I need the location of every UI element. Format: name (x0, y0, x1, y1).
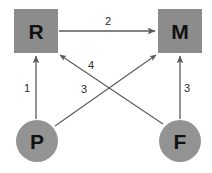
edge-label-p-to-m: 3 (81, 84, 87, 95)
node-r: R (14, 9, 58, 53)
node-p: P (16, 120, 58, 162)
node-p-label: P (30, 131, 44, 152)
edge-label-f-to-r: 4 (88, 60, 94, 71)
node-r-label: R (28, 21, 43, 42)
node-m: M (158, 9, 202, 53)
edge-f-to-r (60, 55, 163, 124)
node-m-label: M (171, 21, 189, 42)
edge-label-p-to-r: 1 (24, 83, 30, 94)
diagram-canvas: R M P F 1 2 4 3 3 (0, 0, 212, 173)
edge-label-r-to-m: 2 (105, 16, 111, 27)
edge-label-f-to-m: 3 (184, 83, 190, 94)
node-f: F (159, 120, 201, 162)
node-f-label: F (174, 131, 187, 152)
edge-p-to-m (55, 55, 156, 126)
